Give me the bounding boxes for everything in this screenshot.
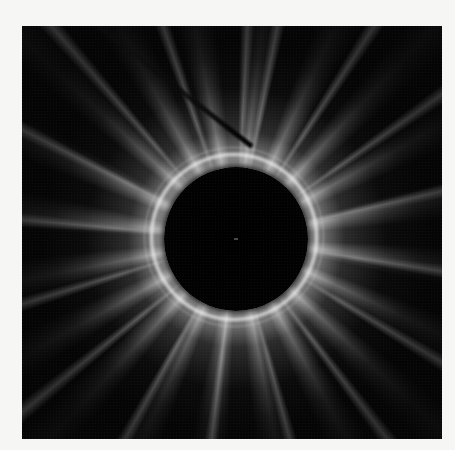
- film-grain: [22, 26, 442, 439]
- diffraction-image: X-ray diffraction style pattern: [22, 26, 442, 439]
